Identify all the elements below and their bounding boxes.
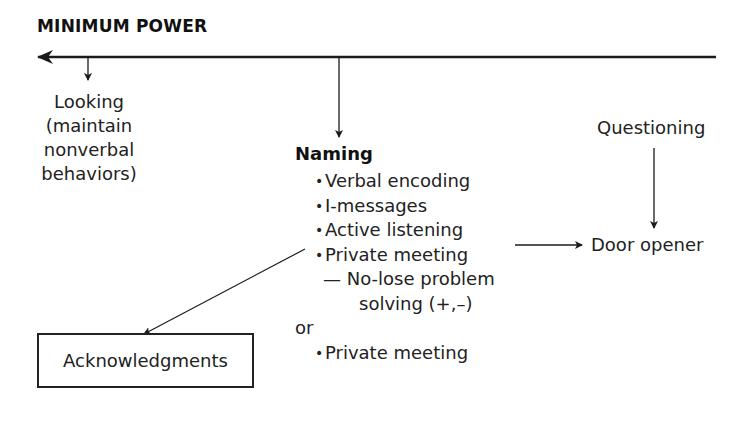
node-naming-heading: Naming <box>295 143 373 164</box>
naming-subitem-no-lose: — No-lose problem <box>315 267 495 292</box>
naming-item-i-messages: •I-messages <box>315 194 495 219</box>
arrow-to-acknowledgments <box>144 249 305 334</box>
bullet-icon: • <box>315 341 325 366</box>
naming-or-label: or <box>295 316 495 341</box>
looking-desc-2: nonverbal <box>30 138 148 162</box>
bullet-icon: • <box>315 243 325 268</box>
looking-desc-1: (maintain <box>30 114 148 138</box>
naming-list: •Verbal encoding •I-messages •Active lis… <box>315 169 495 365</box>
node-acknowledgments-box: Acknowledgments <box>37 333 254 388</box>
bullet-icon: • <box>315 169 325 194</box>
naming-item-verbal-encoding: •Verbal encoding <box>315 169 495 194</box>
looking-desc-3: behaviors) <box>30 162 148 186</box>
bullet-icon: • <box>315 218 325 243</box>
looking-label: Looking <box>30 90 148 114</box>
naming-item-private-meeting: •Private meeting <box>315 243 495 268</box>
bullet-icon: • <box>315 194 325 219</box>
node-questioning: Questioning <box>597 116 705 140</box>
node-door-opener: Door opener <box>591 233 703 257</box>
naming-subitem-no-lose-cont: solving (+,–) <box>315 292 495 317</box>
acknowledgments-label: Acknowledgments <box>63 350 228 371</box>
naming-item-private-meeting-alt: •Private meeting <box>315 341 495 366</box>
naming-item-active-listening: •Active listening <box>315 218 495 243</box>
node-looking: Looking (maintain nonverbal behaviors) <box>30 90 148 186</box>
diagram-title: MINIMUM POWER <box>37 16 207 36</box>
